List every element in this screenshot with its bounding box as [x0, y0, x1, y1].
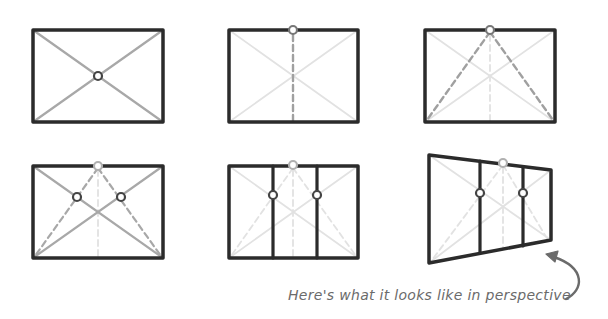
intersection-left-icon — [73, 193, 81, 201]
intersection-left-icon — [269, 191, 277, 199]
panel-3 — [425, 26, 555, 122]
center-point-icon — [94, 72, 102, 80]
top-midpoint-icon — [94, 162, 102, 170]
panel-2 — [229, 26, 358, 122]
intersection-left-icon — [476, 189, 484, 197]
top-midpoint-icon — [289, 161, 297, 169]
top-midpoint-icon — [289, 26, 297, 34]
intersection-right-icon — [313, 191, 321, 199]
intersection-right-icon — [519, 189, 527, 197]
caption-text: Here's what it looks like in perspective — [288, 287, 571, 303]
panel-6 — [429, 155, 551, 263]
vanishing-midpoint-icon — [499, 159, 507, 167]
top-midpoint-icon — [486, 26, 494, 34]
panel-4 — [33, 162, 163, 258]
perspective-division-diagram — [0, 0, 608, 319]
panel-1 — [33, 30, 163, 122]
intersection-right-icon — [117, 193, 125, 201]
panel-5 — [229, 161, 358, 258]
